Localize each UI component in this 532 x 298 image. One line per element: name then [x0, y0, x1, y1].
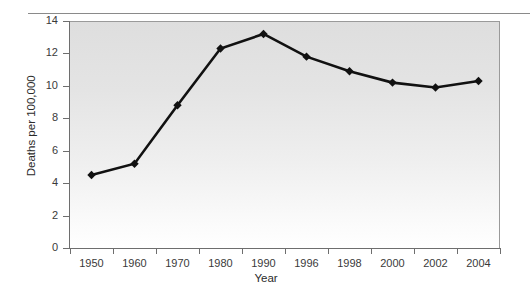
- line-series: [92, 34, 479, 175]
- chart-figure: 02468101214 1950196019701980199019961998…: [0, 0, 532, 298]
- data-point-marker: [431, 83, 439, 91]
- series-layer: [0, 0, 532, 298]
- data-point-marker: [388, 78, 396, 86]
- data-point-marker: [474, 77, 482, 85]
- y-axis-label: Deaths per 100,000: [26, 46, 38, 206]
- data-point-markers: [87, 30, 482, 179]
- x-axis-label: Year: [0, 273, 532, 285]
- data-point-marker: [87, 171, 95, 179]
- data-point-marker: [345, 67, 353, 75]
